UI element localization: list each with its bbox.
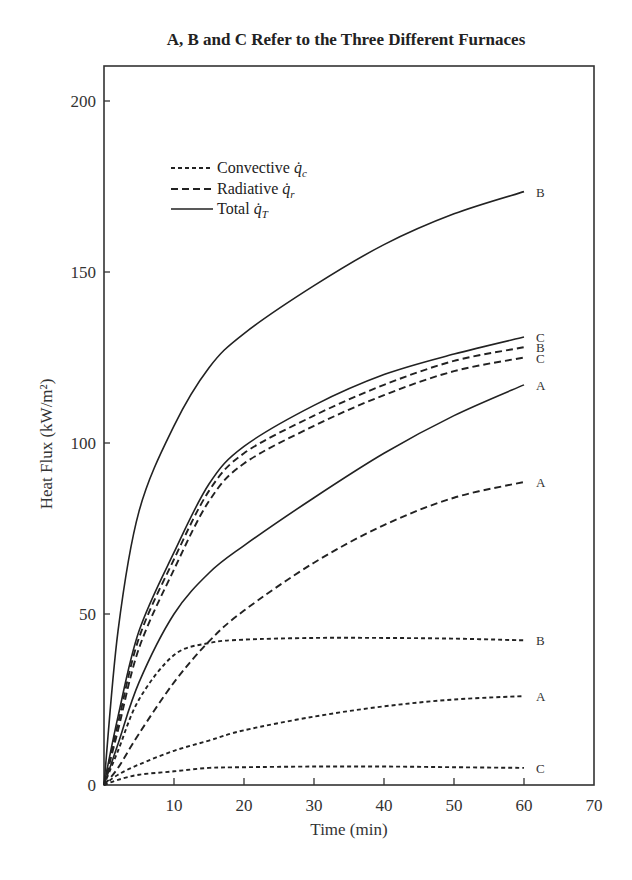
series-end-label: A (536, 475, 546, 490)
series-end-label: B (536, 633, 545, 648)
x-tick-label: 70 (586, 796, 603, 815)
x-tick-label: 60 (516, 796, 533, 815)
plot-border (104, 66, 594, 785)
x-tick-label: 10 (166, 796, 183, 815)
series-line-radiative-c (104, 358, 524, 786)
y-tick-label: 0 (88, 776, 97, 795)
series-line-radiative-a (104, 482, 524, 785)
series-line-total-c (104, 337, 524, 785)
series-end-label: A (536, 689, 546, 704)
x-tick-label: 40 (376, 796, 393, 815)
series-line-convective-b (104, 638, 524, 785)
x-axis: 10203040506070 (166, 778, 603, 815)
legend-entry: Convective q̇c (217, 159, 307, 179)
series-end-label: C (536, 351, 545, 366)
series-end-labels: BCBCAABAC (536, 185, 546, 776)
series-lines (104, 192, 524, 785)
x-tick-label: 30 (306, 796, 323, 815)
legend-entry: Radiative q̇r (217, 180, 295, 200)
y-tick-label: 100 (71, 434, 97, 453)
series-end-label: C (536, 761, 545, 776)
legend-entry: Total q̇T (217, 200, 269, 220)
plot-frame (104, 66, 594, 785)
x-tick-label: 50 (446, 796, 463, 815)
y-tick-label: 200 (71, 92, 97, 111)
y-tick-label: 150 (71, 263, 97, 282)
legend: Convective q̇cRadiative q̇rTotal q̇T (171, 159, 307, 220)
x-tick-label: 20 (236, 796, 253, 815)
x-axis-title: Time (min) (310, 820, 387, 839)
y-tick-label: 50 (79, 605, 96, 624)
series-end-label: B (536, 185, 545, 200)
series-line-total-b (104, 192, 524, 785)
series-end-label: A (536, 378, 546, 393)
y-axis-title: Heat Flux (kW/m²) (37, 379, 56, 510)
chart-plot: 050100150200 10203040506070 BCBCAABAC Co… (0, 0, 632, 880)
